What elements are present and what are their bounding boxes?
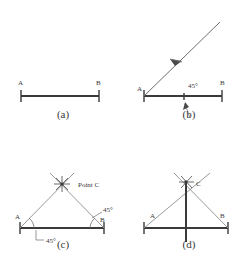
angle-arc-b bbox=[90, 218, 95, 228]
label-point-a: A bbox=[18, 79, 23, 87]
caption-c: (c) bbox=[0, 238, 126, 250]
label-point-c: C bbox=[196, 180, 201, 188]
caption-b: (b) bbox=[126, 108, 252, 120]
label-point-b: B bbox=[220, 212, 225, 220]
ray-arrow-icon bbox=[170, 59, 182, 66]
label-point-b: B bbox=[220, 79, 225, 87]
label-point-a: A bbox=[137, 85, 142, 93]
label-angle-45: 45° bbox=[188, 82, 198, 90]
label-point-c: Point C bbox=[78, 181, 100, 189]
caption-d: (d) bbox=[126, 238, 252, 250]
ray-45-from-a bbox=[20, 173, 74, 228]
caption-a: (a) bbox=[0, 108, 126, 120]
label-angle-right-45: 45° bbox=[103, 206, 113, 214]
label-point-b: B bbox=[96, 79, 101, 87]
label-point-b: B bbox=[100, 216, 105, 224]
panel-b: A B 45° (b) bbox=[126, 0, 252, 130]
label-point-a: A bbox=[15, 213, 20, 221]
geometry-figure: A B (a) A B 45° (b) bbox=[0, 0, 252, 261]
ray-45-from-a bbox=[144, 22, 220, 96]
panel-d: A B C (d) bbox=[126, 130, 252, 261]
point-c-burst-icon bbox=[54, 176, 70, 192]
label-point-a: A bbox=[150, 212, 155, 220]
panel-a: A B (a) bbox=[0, 0, 126, 130]
angle-arc-a bbox=[29, 218, 34, 228]
panel-c: A B Point C 45° 45° (c) bbox=[0, 130, 126, 261]
